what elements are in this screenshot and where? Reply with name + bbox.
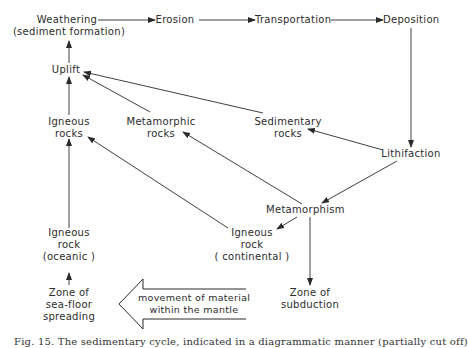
igneous-oceanic-line2: rock [32,239,106,251]
weathering-label: Weathering [6,14,128,26]
node-erosion: Erosion [155,14,195,26]
subduction-line2: subduction [276,299,344,311]
node-igneous-rock-oceanic: Igneous rock (oceanic ) [32,227,106,263]
igneous-continental-line2: rock [210,239,294,251]
metamorphic-rocks-line2: rocks [125,128,197,140]
sedimentary-rocks-line2: rocks [250,128,326,140]
mantle-movement-label: movement of material within the mantle [138,292,250,315]
node-uplift: Uplift [48,64,84,76]
metamorphic-rocks-line1: Metamorphic [125,116,197,128]
node-transportation: Transportation [255,14,331,26]
figure-caption: Fig. 15. The sedimentary cycle, indicate… [14,336,468,348]
mantle-line1: movement of material [138,292,250,304]
arrow-metamorphism-metamorphic [183,132,302,204]
igneous-oceanic-line1: Igneous [32,227,106,239]
lithifaction-label: Lithifaction [380,148,442,160]
node-igneous-rock-continental: Igneous rock ( continental ) [210,227,294,263]
uplift-label: Uplift [48,64,84,76]
sediment-formation-label: (sediment formation) [10,26,128,38]
arrow-sedimentary-uplift [84,72,263,113]
erosion-label: Erosion [155,14,195,26]
metamorphism-label: Metamorphism [266,204,340,216]
subduction-line1: Zone of [276,287,344,299]
mantle-line2: within the mantle [138,304,250,316]
igneous-continental-line1: Igneous [210,227,294,239]
igneous-continental-line3: ( continental ) [210,251,294,263]
node-metamorphic-rocks: Metamorphic rocks [125,116,197,140]
node-sedimentary-rocks: Sedimentary rocks [250,116,326,140]
igneous-oceanic-line3: (oceanic ) [32,251,106,263]
seafloor-line2: sea-floor [34,299,104,311]
arrow-lithifaction-metamorphism [322,161,397,203]
node-metamorphism: Metamorphism [266,204,340,216]
seafloor-line3: spreading [34,311,104,323]
node-lithifaction: Lithifaction [380,148,442,160]
node-zone-seafloor-spreading: Zone of sea-floor spreading [34,287,104,323]
deposition-label: Deposition [383,14,439,26]
node-igneous-rocks: Igneous rocks [38,116,100,140]
sedimentary-rocks-line1: Sedimentary [250,116,326,128]
node-zone-subduction: Zone of subduction [276,287,344,311]
seafloor-line1: Zone of [34,287,104,299]
arrow-continental-igneous-rocks [88,137,228,228]
arrow-metamorphic-uplift [83,75,150,112]
igneous-rocks-line1: Igneous [38,116,100,128]
node-deposition: Deposition [383,14,439,26]
igneous-rocks-line2: rocks [38,128,100,140]
transportation-label: Transportation [255,14,331,26]
node-weathering: Weathering (sediment formation) [10,14,128,38]
